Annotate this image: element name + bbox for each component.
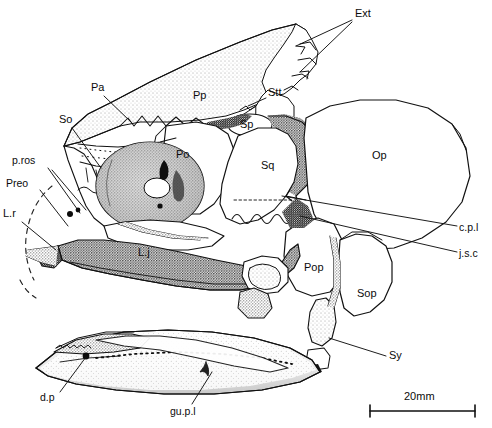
- label-pp: Pp: [193, 90, 206, 101]
- label-po: Po: [176, 149, 189, 160]
- bone-subopercle: [338, 232, 392, 316]
- figure-root: Ext Pa Pp Stt So Sp Po p.ros Sq Op Preo …: [0, 0, 492, 428]
- label-sy: Sy: [389, 350, 402, 361]
- label-op: Op: [372, 150, 387, 161]
- scale-bar: [370, 405, 475, 417]
- label-l-j: L.j: [138, 247, 150, 258]
- label-d-p: d.p: [40, 392, 55, 403]
- label-l-r: L.r: [3, 208, 16, 219]
- bone-gular-plate: [36, 330, 320, 394]
- label-sq: Sq: [261, 160, 274, 171]
- scale-bar-label: 20mm: [404, 390, 435, 402]
- label-preo: Preo: [6, 178, 28, 189]
- label-c-p-l: c.p.l: [459, 222, 478, 233]
- label-sp: Sp: [240, 119, 253, 130]
- label-pa: Pa: [91, 82, 104, 93]
- label-so: So: [59, 114, 72, 125]
- label-sop: Sop: [357, 288, 377, 299]
- label-p-ros: p.ros: [12, 155, 35, 166]
- label-gu-p-l: gu.p.l: [170, 406, 196, 417]
- skull-illustration: [0, 0, 492, 428]
- dashed-rostral-outline: [20, 186, 52, 298]
- label-j-s-c: j.s.c: [459, 248, 478, 259]
- label-pop: Pop: [304, 262, 324, 273]
- label-ext: Ext: [355, 8, 371, 19]
- label-stt: Stt: [268, 87, 281, 98]
